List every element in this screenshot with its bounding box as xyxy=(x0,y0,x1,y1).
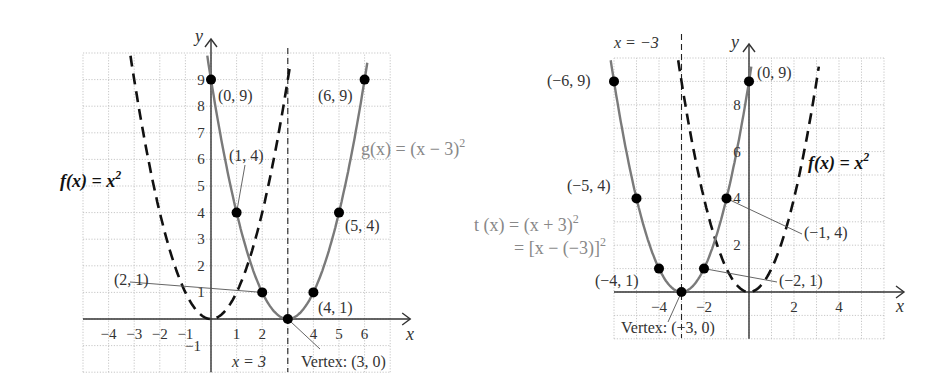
y-tick-label: 2 xyxy=(733,237,741,253)
point-marker xyxy=(334,208,344,218)
point-marker xyxy=(677,287,687,297)
x-tick-label: 2 xyxy=(258,326,266,342)
right-leader-lines xyxy=(668,198,802,322)
x-tick-label: −2 xyxy=(696,299,712,315)
left-f-label: f(x) = x2 xyxy=(60,168,121,192)
left-g-label: g(x) = (x − 3)2 xyxy=(361,136,465,160)
point-marker xyxy=(360,75,370,85)
x-tick-label: 4 xyxy=(310,326,318,342)
point-marker xyxy=(722,193,732,203)
y-tick-label: 8 xyxy=(197,98,205,114)
vertex-label-right: Vertex: (−3, 0) xyxy=(621,319,715,337)
point-label-m5-4: (−5, 4) xyxy=(567,177,611,195)
y-tick-label: 9 xyxy=(197,72,205,88)
symmetry-label-right: x = −3 xyxy=(613,34,659,51)
point-marker xyxy=(257,287,267,297)
point-label-m1-4: (−1, 4) xyxy=(804,224,848,242)
point-marker xyxy=(609,76,619,86)
y-tick-label: 6 xyxy=(733,144,741,160)
right-f-label: f(x) = x2 xyxy=(808,150,869,174)
y-tick-label: 2 xyxy=(197,258,205,274)
point-label-0-9-right: (0, 9) xyxy=(757,64,792,82)
symmetry-label-left: x = 3 xyxy=(231,353,266,370)
point-label-4-1: (4, 1) xyxy=(318,299,353,317)
x-tick-label: 6 xyxy=(361,326,369,342)
x-tick-label: −3 xyxy=(126,326,142,342)
point-marker xyxy=(206,75,216,85)
point-label-2-1: (2, 1) xyxy=(114,271,149,289)
y-tick-label: 7 xyxy=(197,125,205,141)
point-label-m2-1: (−2, 1) xyxy=(779,272,823,290)
point-label-6-9: (6, 9) xyxy=(318,87,353,105)
point-marker xyxy=(308,287,318,297)
right-t-label-line2: = [x − (−3)]2 xyxy=(514,235,606,259)
x-tick-label: 5 xyxy=(335,326,343,342)
y-tick-label: 8 xyxy=(733,97,741,113)
vertex-label-left: Vertex: (3, 0) xyxy=(301,353,386,371)
y-tick-label: 1 xyxy=(197,284,205,300)
point-marker xyxy=(232,208,242,218)
x-tick-label: 2 xyxy=(790,299,798,315)
point-label-m4-1: (−4, 1) xyxy=(595,272,639,290)
left-graph: −4−3−2−112456−1123456789 y x f(x) = x2 g… xyxy=(60,26,465,372)
x-tick-label: 4 xyxy=(835,299,843,315)
y-tick-label: 3 xyxy=(197,231,205,247)
point-label-5-4: (5, 4) xyxy=(345,217,380,235)
y-tick-label: 6 xyxy=(197,151,205,167)
left-y-axis-label: y xyxy=(193,26,203,46)
left-x-axis-label: x xyxy=(405,324,414,344)
leader-line xyxy=(237,165,245,213)
right-y-axis-label: y xyxy=(729,32,739,52)
point-marker xyxy=(699,264,709,274)
x-tick-label: −2 xyxy=(152,326,168,342)
leader-line xyxy=(130,282,262,292)
leader-line xyxy=(727,198,803,234)
y-tick-label: 5 xyxy=(197,178,205,194)
point-label-0-9: (0, 9) xyxy=(218,87,253,105)
point-label-m6-9: (−6, 9) xyxy=(547,72,591,90)
leader-line xyxy=(704,269,777,282)
point-marker xyxy=(654,264,664,274)
point-marker xyxy=(283,314,293,324)
y-tick-label: 4 xyxy=(197,205,205,221)
right-t-label-line1: t (x) = (x + 3)2 xyxy=(474,212,579,236)
right-x-axis-label: x xyxy=(895,296,904,316)
y-tick-label: −1 xyxy=(185,338,201,354)
point-label-1-4: (1, 4) xyxy=(229,147,264,165)
x-tick-label: −4 xyxy=(651,299,667,315)
figure: −4−3−2−112456−1123456789 y x f(x) = x2 g… xyxy=(0,0,950,387)
point-marker xyxy=(632,193,642,203)
x-tick-label: 1 xyxy=(233,326,241,342)
y-tick-label: 4 xyxy=(733,190,741,206)
right-axes xyxy=(614,44,904,339)
x-tick-label: −4 xyxy=(101,326,117,342)
point-marker xyxy=(744,76,754,86)
right-graph: −4−2242468 y x x = −3 f(x) = x2 t (x) = … xyxy=(474,32,904,339)
